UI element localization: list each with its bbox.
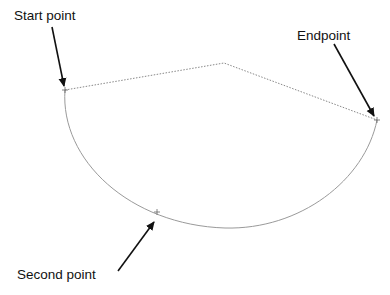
arc-diagram: Start point Endpoint Second point — [0, 0, 390, 295]
start-arrow-icon — [52, 27, 64, 86]
construction-lines — [65, 63, 377, 120]
endpoint-arrow-icon — [334, 44, 374, 116]
second-point-label: Second point — [17, 267, 96, 282]
start-point-marker — [62, 87, 68, 93]
endpoint-marker — [374, 117, 380, 123]
second-point-marker — [154, 209, 160, 215]
arc — [65, 90, 377, 228]
start-point-label: Start point — [14, 8, 76, 23]
second-point-arrow-icon — [118, 222, 154, 271]
endpoint-label: Endpoint — [297, 28, 351, 43]
